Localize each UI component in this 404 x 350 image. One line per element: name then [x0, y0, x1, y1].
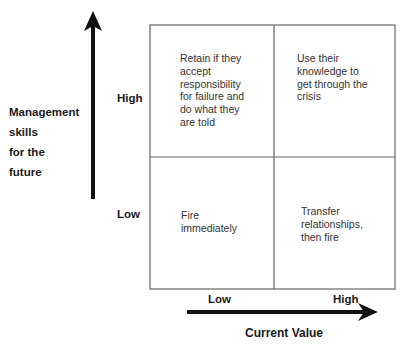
quadrant-text-line: get through the — [297, 78, 368, 91]
x-tick-low: Low — [208, 293, 231, 305]
x-tick-high: High — [333, 293, 359, 305]
quadrant-text-line: for failure and — [180, 90, 244, 103]
quadrant-text-line: accept — [180, 65, 244, 78]
x-axis-label: Current Value — [245, 326, 323, 340]
quadrant-text-line: then fire — [301, 231, 363, 244]
quadrant-text-line: knowledge to — [297, 65, 368, 78]
quadrant-top-left: Retain if they accept responsibility for… — [180, 52, 244, 129]
quadrant-top-right: Use their knowledge to get through the c… — [297, 52, 368, 103]
y-axis-label-line: future — [9, 166, 42, 178]
quadrant-bottom-left: Fire immediately — [181, 209, 237, 235]
quadrant-text-line: Use their — [297, 52, 368, 65]
quadrant-text-line: immediately — [181, 222, 237, 235]
y-tick-high: High — [117, 92, 143, 104]
y-tick-low: Low — [117, 208, 140, 220]
x-axis-arrow-icon — [187, 303, 378, 321]
quadrant-text-line: do what they — [180, 103, 244, 116]
quadrant-text-line: Transfer — [301, 205, 363, 218]
quadrant-text-line: crisis — [297, 90, 368, 103]
y-axis-label-line: skills — [9, 126, 38, 138]
quadrant-text-line: are told — [180, 116, 244, 129]
y-axis-arrow-icon — [84, 11, 102, 199]
quadrant-text-line: relationships, — [301, 218, 363, 231]
y-axis-label-line: for the — [9, 146, 45, 158]
y-axis-label-line: Management — [9, 106, 79, 118]
quadrant-bottom-right: Transfer relationships, then fire — [301, 205, 363, 243]
quadrant-text-line: responsibility — [180, 78, 244, 91]
quadrant-text-line: Fire — [181, 209, 237, 222]
quadrant-text-line: Retain if they — [180, 52, 244, 65]
